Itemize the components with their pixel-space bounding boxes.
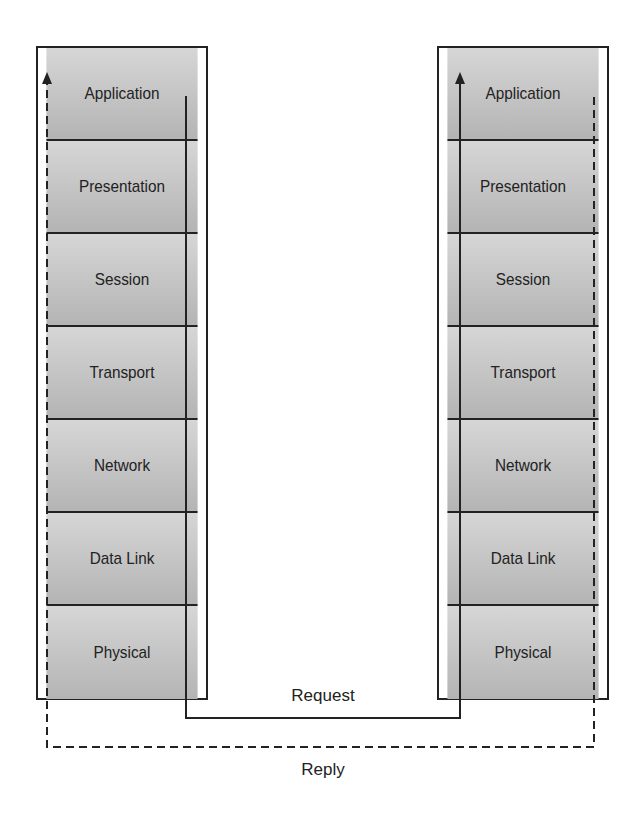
request-label: Request bbox=[291, 686, 354, 706]
reply-path bbox=[47, 82, 594, 747]
reply-label: Reply bbox=[301, 760, 344, 780]
request-arrow-icon bbox=[455, 72, 465, 84]
request-path bbox=[186, 80, 460, 718]
reply-arrow-icon bbox=[42, 72, 52, 84]
